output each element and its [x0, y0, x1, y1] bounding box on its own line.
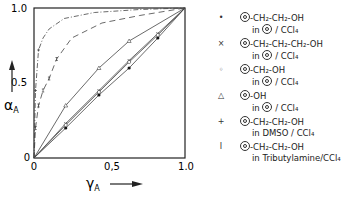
data-point-marker — [64, 123, 67, 126]
legend-solvent: in / CCl₄ — [240, 50, 349, 62]
x-tick-0: 0 — [31, 161, 37, 172]
legend-formula: -OH — [240, 90, 349, 102]
y-tick-1: 1.0 — [11, 3, 27, 14]
legend-marker-icon: × — [216, 38, 226, 49]
benzene-ring-icon — [240, 38, 250, 48]
data-point-marker — [37, 104, 39, 107]
data-point-marker — [97, 90, 100, 93]
series-line-2 — [34, 8, 185, 158]
legend-entry: ×-CH₂-CH₂-CH₂-OHin / CCl₄ — [216, 38, 349, 62]
data-point-marker — [37, 49, 40, 52]
legend-solvent: in Tributylamine/CCl₄ — [240, 153, 349, 164]
legend-marker-icon: • — [216, 12, 226, 23]
legend-formula: -CH₂-OH — [240, 64, 349, 76]
x-tick-05: 0,5 — [104, 161, 120, 172]
data-point-marker — [156, 33, 159, 36]
legend-solvent: in / CCl₄ — [240, 102, 349, 114]
benzene-ring-icon — [262, 102, 272, 112]
legend-solvent: in DMSO / CCl₄ — [240, 128, 349, 139]
benzene-ring-icon — [240, 90, 250, 100]
legend-formula: -CH₂-CH₂-OH — [240, 141, 349, 153]
legend-marker-icon: △ — [216, 90, 226, 101]
y-axis-label: αA — [4, 97, 19, 115]
legend-marker-icon: + — [216, 116, 226, 127]
curves — [34, 8, 185, 158]
benzene-ring-icon — [240, 116, 250, 126]
y-tick-0: 0 — [24, 152, 30, 163]
legend-marker-icon: ◦ — [216, 64, 226, 75]
legend-entry: ◦-CH₂-OHin / CCl₄ — [216, 64, 349, 88]
benzene-ring-icon — [240, 141, 250, 151]
legend: •-CH₂-CH₂-OHin / CCl₄×-CH₂-CH₂-CH₂-OHin … — [216, 12, 349, 166]
x-axis-label: γA — [86, 175, 100, 193]
y-tick-05: 0.5 — [11, 77, 27, 88]
benzene-ring-icon — [240, 64, 250, 74]
x-arrowhead-icon — [132, 181, 143, 187]
benzene-ring-icon — [240, 12, 250, 22]
legend-entry: +-CH₂-CH₂-OHin DMSO / CCl₄ — [216, 116, 349, 139]
legend-formula: -CH₂-CH₂-CH₂-OH — [240, 38, 349, 50]
data-point-marker — [128, 60, 131, 63]
benzene-ring-icon — [262, 50, 272, 60]
markers — [34, 32, 159, 130]
benzene-ring-icon — [262, 24, 272, 34]
legend-formula: -CH₂-CH₂-OH — [240, 12, 349, 24]
legend-solvent: in / CCl₄ — [240, 24, 349, 36]
legend-formula: -CH₂-CH₂-OH — [240, 116, 349, 128]
data-point-marker — [128, 66, 131, 69]
data-point-marker — [127, 39, 131, 43]
x-tick-1: 1.0 — [178, 161, 194, 172]
legend-entry: •-CH₂-CH₂-OHin / CCl₄ — [216, 12, 349, 36]
chart-plot: 1.0 0.5 0 0 0,5 1.0 αA γA — [0, 0, 215, 198]
legend-marker-icon: I — [216, 141, 226, 152]
legend-entry: △-OHin / CCl₄ — [216, 90, 349, 114]
legend-entry: I-CH₂-CH₂-OHin Tributylamine/CCl₄ — [216, 141, 349, 164]
y-arrowhead-icon — [9, 60, 15, 70]
benzene-ring-icon — [262, 76, 272, 86]
legend-solvent: in / CCl₄ — [240, 76, 349, 88]
data-point-marker — [42, 89, 44, 92]
